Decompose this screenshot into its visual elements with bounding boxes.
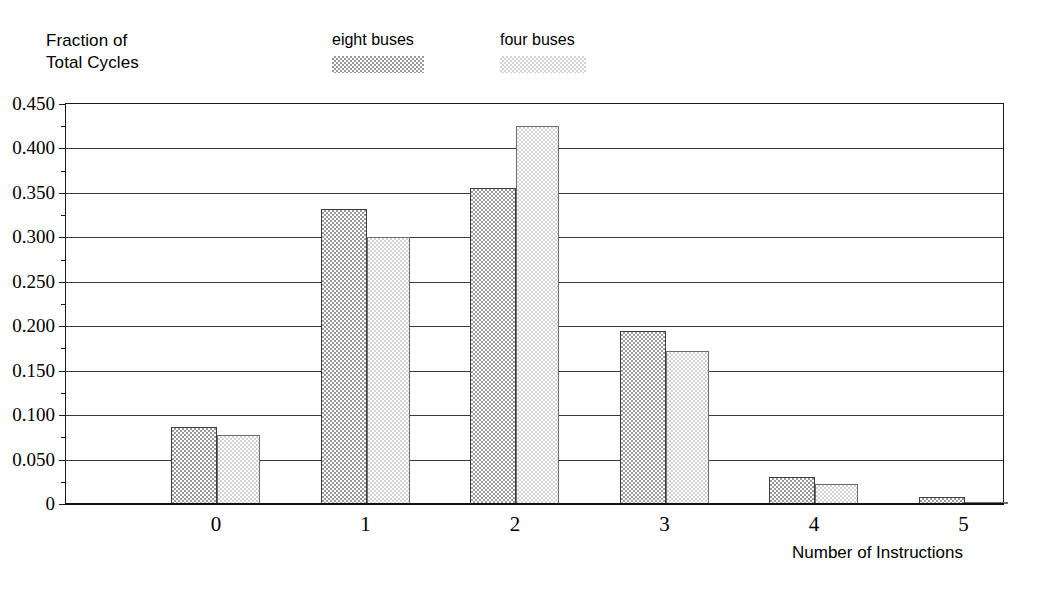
x-axis-tick-label: 1 — [360, 512, 371, 537]
y-axis-tick — [59, 326, 66, 327]
y-axis-minor-tick — [61, 437, 66, 438]
x-axis-tick-label: 2 — [510, 512, 521, 537]
y-axis-tick-label: 0.150 — [12, 359, 55, 381]
y-axis-tick-label: 0.450 — [12, 93, 55, 115]
y-axis-tick-label: 0.200 — [12, 315, 55, 337]
y-axis-tick — [59, 148, 66, 149]
y-axis-minor-tick — [61, 304, 66, 305]
plot-area: 0.4500.4000.3500.3000.2500.2000.1500.100… — [65, 103, 1004, 504]
x-axis-tick-label: 0 — [211, 512, 222, 537]
y-axis-tick — [59, 415, 66, 416]
legend-swatch-eight-buses — [332, 56, 424, 73]
y-axis-minor-tick — [61, 215, 66, 216]
x-axis-line — [65, 503, 1004, 505]
bar-eight-buses-3 — [620, 331, 666, 504]
y-axis-tick-label: 0.300 — [12, 226, 55, 248]
y-axis-tick-label: 0.050 — [12, 448, 55, 470]
bar-eight-buses-1 — [321, 209, 367, 504]
y-axis-minor-tick — [61, 260, 66, 261]
y-axis-title: Fraction of Total Cycles — [46, 30, 139, 74]
y-axis-tick-label: 0 — [46, 493, 56, 515]
bar-four-buses-3 — [666, 351, 709, 504]
bar-eight-buses-0 — [171, 427, 217, 504]
y-axis-minor-tick — [61, 171, 66, 172]
y-axis-minor-tick — [61, 393, 66, 394]
y-axis-tick-label: 0.350 — [12, 181, 55, 203]
y-axis-tick — [59, 460, 66, 461]
y-axis-tick — [59, 371, 66, 372]
chart-figure: Fraction of Total Cycles eight buses fou… — [0, 0, 1054, 597]
y-axis-minor-tick — [61, 348, 66, 349]
bar-four-buses-2 — [516, 126, 559, 504]
bar-four-buses-0 — [217, 435, 260, 504]
x-axis-tick-label: 5 — [958, 512, 969, 537]
legend-item-four-buses: four buses — [500, 30, 586, 73]
bar-four-buses-4 — [815, 484, 858, 504]
y-axis-minor-tick — [61, 482, 66, 483]
legend-swatch-four-buses — [500, 56, 586, 73]
bar-eight-buses-2 — [470, 188, 516, 504]
x-axis-tick-label: 3 — [659, 512, 670, 537]
y-axis-tick-label: 0.250 — [12, 270, 55, 292]
y-axis-tick-label: 0.100 — [12, 404, 55, 426]
y-axis-tick — [59, 193, 66, 194]
y-axis-tick-label: 0.400 — [12, 137, 55, 159]
legend-label-four-buses: four buses — [500, 30, 586, 50]
bar-four-buses-1 — [367, 237, 410, 504]
x-axis-tick-label: 4 — [809, 512, 820, 537]
legend-item-eight-buses: eight buses — [332, 30, 424, 73]
bar-eight-buses-4 — [769, 477, 815, 504]
y-axis-tick — [59, 104, 66, 105]
x-axis-title: Number of Instructions — [792, 543, 963, 563]
y-axis-tick — [59, 282, 66, 283]
y-axis-tick — [59, 237, 66, 238]
y-axis-minor-tick — [61, 126, 66, 127]
legend-label-eight-buses: eight buses — [332, 30, 424, 50]
